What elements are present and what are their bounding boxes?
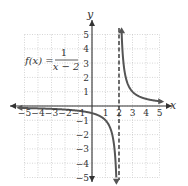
y-tick-label: −4 [76, 159, 90, 169]
y-axis-label: y [86, 8, 94, 21]
x-tick-label: −5 [18, 108, 32, 118]
axes [10, 20, 172, 182]
y-tick-label: 3 [83, 59, 89, 69]
x-tick-label: 4 [143, 108, 149, 118]
curve-left-branch [19, 108, 116, 178]
x-tick-label: −3 [45, 108, 59, 118]
y-tick-label: −2 [76, 130, 89, 140]
curve-arrow-right-icon [158, 98, 164, 104]
y-tick-label: −3 [76, 144, 90, 154]
y-tick-label: 4 [83, 44, 89, 54]
x-tick-label: −4 [31, 108, 45, 118]
x-tick-label: 2 [116, 108, 122, 118]
y-axis-arrow-down-icon [89, 176, 95, 182]
x-axis-arrow-left-icon [10, 103, 16, 109]
curve-arrow-down-icon [113, 179, 120, 185]
axis-labels: x y [86, 8, 177, 112]
equation-numerator: 1 [61, 47, 67, 58]
curve-right-branch [122, 32, 163, 102]
x-tick-label: 3 [130, 108, 136, 118]
x-tick-label: −2 [58, 108, 71, 118]
y-tick-label: −1 [76, 116, 89, 126]
x-tick-label: 1 [103, 108, 109, 118]
equation-lhs: f(x) = [24, 55, 54, 66]
rational-function-graph: −5−4−3−2−11234554321−1−2−3−4−5 x y f(x) … [0, 0, 188, 186]
y-tick-label: −5 [76, 173, 90, 183]
function-equation: f(x) = 1 x − 2 [24, 47, 79, 72]
x-tick-label: 5 [157, 108, 163, 118]
y-tick-label: 1 [83, 87, 89, 97]
y-tick-label: 2 [83, 73, 89, 83]
equation-denominator: x − 2 [53, 61, 80, 72]
y-tick-label: 5 [83, 30, 89, 40]
x-axis-label: x [170, 99, 177, 112]
